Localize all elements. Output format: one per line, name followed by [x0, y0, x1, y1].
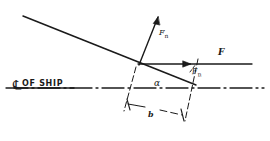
centerline-label: OF SHIP	[22, 80, 63, 88]
force-arrowhead-icon	[183, 61, 191, 67]
centerline-symbol-icon: ℄	[13, 77, 21, 92]
normal-force-arrowhead-icon	[153, 17, 159, 25]
diagram-canvas	[0, 0, 270, 141]
rudder-stock-line	[23, 16, 196, 85]
resultant-force-label: F	[218, 48, 224, 57]
force-diagram: ℄ OF SHIP Fn F Fn α b	[0, 0, 270, 141]
dimension-label: b	[148, 110, 154, 118]
normal-force-top-subscript: n	[165, 32, 169, 39]
normal-force-top-label: Fn	[159, 29, 168, 39]
dimension-line-b-2	[160, 110, 182, 115]
angle-label: α	[154, 79, 160, 88]
normal-force-low-label: Fn	[192, 68, 202, 78]
dimension-line-b	[128, 104, 145, 107]
normal-force-low-subscript: n	[197, 70, 201, 77]
